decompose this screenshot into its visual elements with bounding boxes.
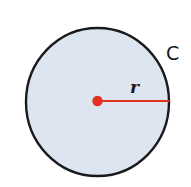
radius-label: r (130, 79, 139, 96)
center-dot (92, 96, 102, 106)
circle-diagram: C r (0, 0, 191, 187)
circumference-label: C (166, 44, 179, 63)
circle-diagram-canvas (0, 0, 191, 187)
